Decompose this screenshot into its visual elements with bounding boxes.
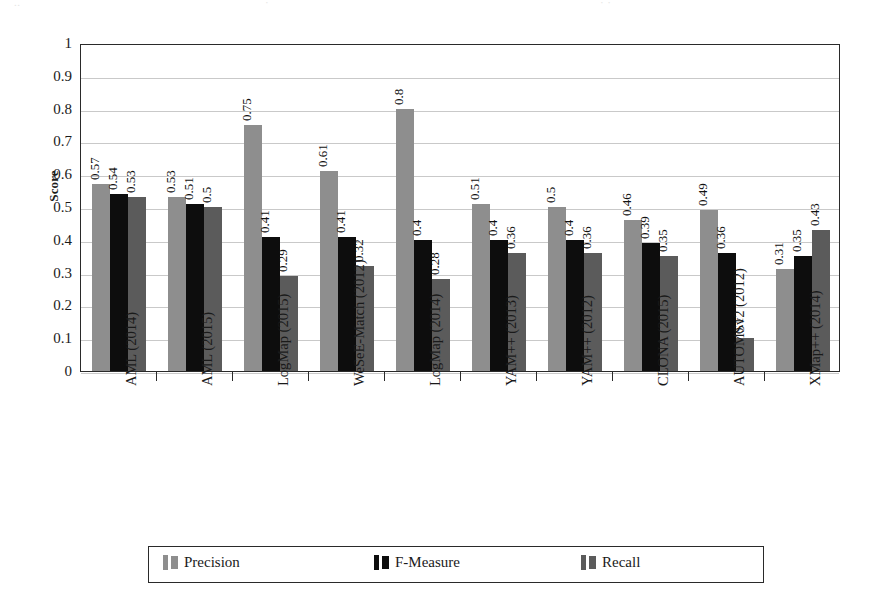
bar-value-label: 0.49 [696,184,709,207]
y-axis-tick-label: 0 [38,364,72,379]
x-axis-tick [688,372,689,381]
bar-precision: 0.57 [92,184,110,371]
bar-chart-figure: .. · · · Score 10.90.80.70.60.50.40.30.2… [0,0,874,605]
x-axis-tick [460,372,461,381]
x-axis-tick [232,372,233,381]
bar-value-label: 0.61 [316,144,329,167]
bar-value-label: 0.43 [808,203,821,226]
legend-item-recall[interactable]: Recall [581,555,640,570]
legend-swatch-bar-b [382,556,389,569]
legend-label: F-Measure [395,555,460,570]
bar-value-label: 0.4 [562,220,575,236]
bar-value-label: 0.46 [620,193,633,216]
bar-value-label: 0.53 [164,170,177,193]
bar-value-label: 0.31 [772,243,785,266]
scan-artifact-left: .. [14,0,20,8]
chart-legend: PrecisionF-MeasureRecall [148,546,764,583]
bar-precision: 0.53 [168,197,186,371]
bar-value-label: 0.5 [544,187,557,203]
x-axis-category-label: YAM++ (2013) [504,236,519,386]
bar-value-label: 0.75 [240,98,253,121]
x-axis-tick [764,372,765,381]
bar-value-label: 0.41 [258,210,271,233]
plot-area: 0.570.540.530.530.510.50.750.410.290.610… [80,44,840,372]
legend-swatch-bar-a [581,555,586,570]
y-axis-tick-label: 0.4 [38,233,72,248]
x-axis-category-label: AUTOMSv2 (2012) [732,236,747,386]
x-axis-category-label: LogMap (2014) [428,236,443,386]
bar-value-label: 0.51 [182,177,195,200]
x-axis-category-label: YAM++ (2012) [580,236,595,386]
bar-value-label: 0.8 [392,88,405,104]
y-axis-tick-label: 0.7 [38,134,72,149]
bar-value-label: 0.36 [714,226,727,249]
bar-precision: 0.61 [320,171,338,371]
bar-value-label: 0.5 [200,187,213,203]
x-axis-category-label: CLONA (2015) [656,236,671,386]
bar-value-label: 0.4 [486,220,499,236]
y-axis-tick-label: 0.2 [38,298,72,313]
x-axis-tick [384,372,385,381]
y-axis-tick-label: 0.6 [38,167,72,182]
bar-value-label: 0.41 [334,210,347,233]
scan-artifact-right: · · [600,0,611,8]
bar-value-label: 0.39 [638,216,651,239]
legend-swatch-icon [581,555,596,570]
x-axis-category-label: AML (2014) [124,236,139,386]
y-axis-tick-label: 0.3 [38,266,72,281]
x-axis-category-label: XMap++ (2014) [808,236,823,386]
legend-swatch-bar-b [589,556,596,569]
x-axis-tick [156,372,157,381]
x-axis-tick [308,372,309,381]
x-axis-category-label: AML (2015) [200,236,215,386]
legend-swatch-bar-b [171,556,178,569]
bar-value-label: 0.54 [106,167,119,190]
bar-value-label: 0.51 [468,177,481,200]
bar-value-label: 0.35 [790,229,803,252]
y-axis-tick-label: 0.8 [38,102,72,117]
legend-item-precision[interactable]: Precision [163,555,240,570]
scan-artifact-mid: · [265,0,269,8]
legend-swatch-icon [163,555,178,570]
legend-swatch-bar-a [374,555,379,570]
legend-label: Precision [184,555,240,570]
bar-value-label: 0.4 [410,220,423,236]
y-axis-tick-label: 1 [38,36,72,51]
scan-edge-artifact: .. · · · [0,0,874,14]
x-axis-category-label: WeSeE-Match (2012) [352,236,367,386]
legend-label: Recall [602,555,640,570]
bar-precision: 0.46 [624,220,642,371]
bar-value-label: 0.57 [88,157,101,180]
bar-precision: 0.75 [244,125,262,371]
legend-swatch-bar-a [163,555,168,570]
x-axis-tick [536,372,537,381]
y-axis-tick-label: 0.5 [38,200,72,215]
legend-swatch-icon [374,555,389,570]
legend-item-f-measure[interactable]: F-Measure [374,555,460,570]
bar-precision: 0.31 [776,269,794,371]
x-axis-tick [612,372,613,381]
bar-precision: 0.8 [396,109,414,371]
bar-value-label: 0.53 [124,170,137,193]
y-axis-tick-label: 0.1 [38,331,72,346]
x-axis-category-label: LogMap (2015) [276,236,291,386]
y-axis-tick-label: 0.9 [38,69,72,84]
